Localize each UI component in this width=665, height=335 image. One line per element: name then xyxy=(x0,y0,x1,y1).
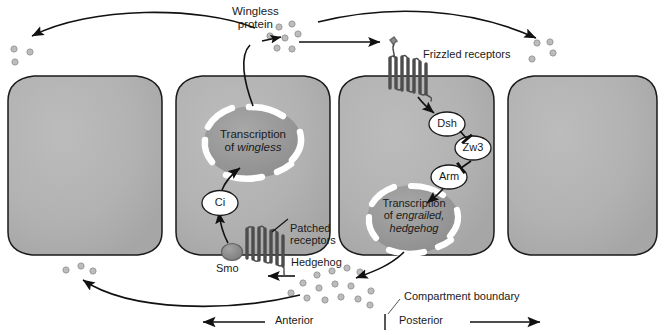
hedgehog-dots-left xyxy=(63,263,96,274)
wingless-transport-arrow-left xyxy=(32,12,255,36)
smo-protein-icon xyxy=(222,244,243,261)
wingless-transcription-label: Transcription of wingless xyxy=(205,128,301,154)
dsh-label: Dsh xyxy=(432,117,462,129)
wingless-transport-arrow-right xyxy=(318,11,536,38)
diagram-canvas xyxy=(0,0,665,335)
ci-label: Ci xyxy=(205,196,235,208)
frizzled-receptors-label: Frizzled receptors xyxy=(423,48,510,60)
wingless-dots-left xyxy=(11,46,33,65)
compartment-boundary-label: Compartment boundary xyxy=(404,290,520,302)
hedgehog-label: Hedgehog xyxy=(291,256,342,268)
wingless-dots-right xyxy=(529,39,556,62)
hedgehog-transport-arrow-left xyxy=(83,280,300,306)
wingless-protein-label: Wingless protein xyxy=(232,5,279,31)
anterior-label: Anterior xyxy=(275,314,314,326)
engrailed-hedgehog-transcription-label: Transcription of engrailed, hedgehog xyxy=(368,197,460,234)
patched-receptors-label: Patched receptors xyxy=(290,222,336,247)
cell-1-anterior xyxy=(8,76,162,255)
hedgehog-dots xyxy=(288,265,374,308)
cell-4-posterior xyxy=(508,76,657,255)
zw3-label: Zw3 xyxy=(458,141,488,153)
smo-label: Smo xyxy=(216,262,239,274)
compartment-boundary-leader xyxy=(388,299,400,314)
arm-label: Arm xyxy=(434,170,464,182)
pathway-diagram: Wingless protein Frizzled receptors Patc… xyxy=(0,0,665,335)
hedgehog-secretion-arrow xyxy=(356,252,404,278)
posterior-label: Posterior xyxy=(399,314,443,326)
